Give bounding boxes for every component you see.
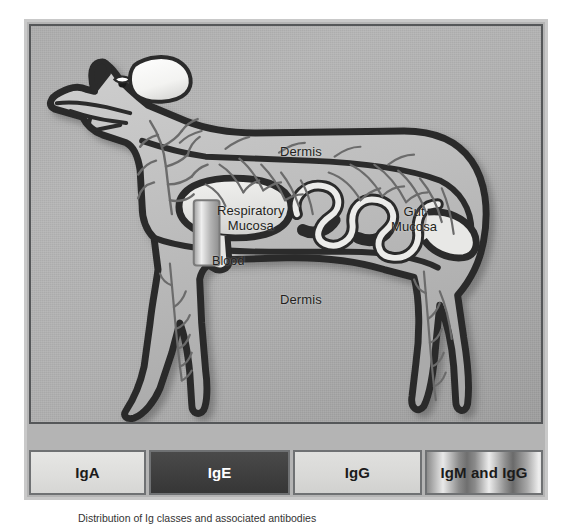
- legend-item-igg[interactable]: IgG: [293, 450, 422, 495]
- label-respiratory-mucosa: Respiratory Mucosa: [217, 203, 285, 233]
- legend-item-igm-and-igg[interactable]: IgM and IgG: [425, 450, 543, 495]
- legend-label-ige: IgE: [208, 464, 232, 481]
- brain-region: [130, 57, 191, 102]
- label-gut-mucosa: Gut Mucosa: [391, 204, 437, 234]
- dog-eye-white: [114, 76, 130, 82]
- figure-container: Dermis Dermis Respiratory Mucosa Blood G…: [0, 0, 575, 524]
- figure-caption: Distribution of Ig classes and associate…: [78, 512, 508, 524]
- label-blood: Blood: [212, 254, 244, 269]
- legend-label-igm-and-igg: IgM and IgG: [441, 464, 528, 481]
- legend-label-iga: IgA: [75, 464, 99, 481]
- legend-strip: IgA IgE IgG IgM and IgG: [29, 450, 543, 495]
- illustration-panel: Dermis Dermis Respiratory Mucosa Blood G…: [29, 24, 543, 424]
- label-dermis-top: Dermis: [280, 144, 322, 159]
- dog-anatomy-illustration: [31, 26, 541, 422]
- legend-label-igg: IgG: [345, 464, 370, 481]
- legend-item-ige[interactable]: IgE: [149, 450, 290, 495]
- label-dermis-bottom: Dermis: [280, 292, 322, 307]
- legend-item-iga[interactable]: IgA: [29, 450, 146, 495]
